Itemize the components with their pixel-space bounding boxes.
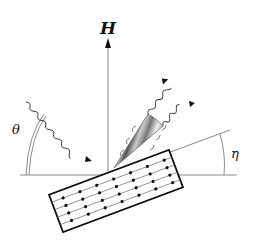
outgoing-arrowhead-1 (160, 76, 169, 85)
eta-arc (220, 134, 225, 175)
theta-arc (26, 114, 46, 175)
field-arrow (105, 38, 111, 175)
outgoing-wave-1 (147, 83, 171, 117)
incident-wave (16, 101, 80, 158)
incident-arrowhead (85, 156, 92, 162)
theta-label: θ (12, 122, 20, 137)
outgoing-arrowhead-2 (189, 101, 195, 107)
eta-label: η (231, 146, 239, 161)
sample-lattice (49, 150, 183, 232)
field-label: H (99, 18, 117, 38)
diagram-canvas: H η θ (0, 0, 254, 243)
outgoing-wave-2 (157, 104, 184, 126)
